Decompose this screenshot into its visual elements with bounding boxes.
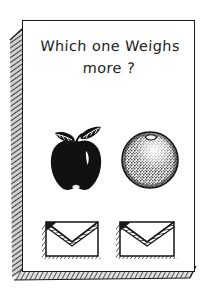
apple-icon [51,127,101,190]
envelope-right-illustration [115,219,181,263]
illustration-scene: Which one Weighs more ? [0,0,205,294]
envelope-left-illustration [41,219,105,263]
envelope-icon [42,222,102,259]
question-card: Which one Weighs more ? [22,20,195,272]
title-line-1: Which one Weighs [40,38,181,54]
orange-icon [119,129,181,191]
apple-illustration [45,125,107,193]
title-line-2: more ? [22,57,196,79]
envelope-icon [116,222,178,259]
orange-illustration [119,129,181,191]
page-title: Which one Weighs more ? [22,35,197,79]
